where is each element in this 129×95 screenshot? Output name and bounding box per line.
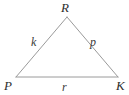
side-label-bottom: r <box>62 81 67 93</box>
vertex-label-k: K <box>116 79 125 92</box>
triangle-side-left <box>16 17 67 77</box>
side-label-right: p <box>90 36 96 48</box>
vertex-label-p: P <box>4 79 12 92</box>
triangle-figure: R P K k p r <box>0 0 129 95</box>
side-label-left: k <box>31 36 36 48</box>
vertex-label-r: R <box>61 1 69 14</box>
